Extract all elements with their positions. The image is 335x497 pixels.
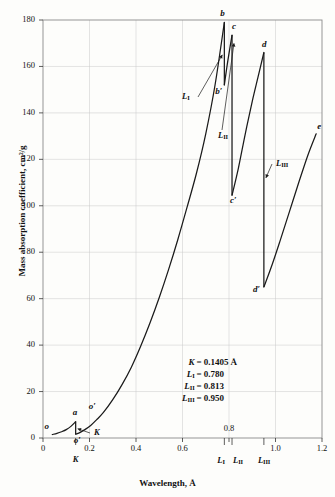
edge-axis-label-L-III: LIII (258, 456, 270, 466)
x-tick-label: 0.6 (168, 444, 198, 453)
x-tick-label: 0.8 (214, 424, 244, 433)
edge-callout-K: K (94, 428, 100, 437)
edge-value-equals: = (196, 381, 203, 393)
edge-value-symbol: LII (181, 381, 196, 393)
edge-value-number: 0.1405 (203, 357, 230, 369)
edge-value-symbol: LIII (181, 393, 196, 405)
edge-value-unit (229, 369, 238, 381)
y-tick-label: 160 (9, 61, 35, 70)
chart-canvas (0, 0, 335, 497)
curve-point-label-cp: c′ (230, 196, 237, 205)
edge-value-symbol: LI (181, 369, 196, 381)
edge-value-row: LII=0.813 (181, 381, 238, 393)
edge-value-unit: Å (229, 357, 238, 369)
curve-point-label-op: o′ (89, 402, 96, 411)
edge-callout-L-III: LIII (276, 159, 288, 169)
y-tick-label: 60 (9, 294, 35, 303)
edge-callout-L-II: LII (218, 131, 228, 141)
curve-point-label-c: c (232, 22, 236, 31)
curve-point-label-o: o (44, 422, 49, 431)
curve-point-label-d: d (262, 40, 267, 49)
edge-value-equals: = (196, 369, 203, 381)
curve-point-label-b: b (220, 9, 225, 18)
y-tick-label: 0 (9, 433, 35, 442)
y-axis-title: Mass absorption coefficient, cm²/g (17, 136, 27, 286)
figure-container: 020406080100120140160180 00.20.40.60.81.… (0, 0, 335, 497)
edge-value-number: 0.813 (203, 381, 230, 393)
edge-axis-label-L-II: LII (233, 456, 243, 466)
edge-value-equals: = (196, 357, 203, 369)
edge-callout-L-I: LI (182, 92, 190, 102)
curve-point-label-bp: b′ (215, 87, 222, 96)
x-tick-label: 1.0 (261, 444, 291, 453)
x-tick-label: 0.4 (121, 444, 151, 453)
y-tick-label: 40 (9, 340, 35, 349)
x-axis-title: Wavelength, Å (0, 479, 335, 488)
curve-point-label-dp: d′ (253, 285, 260, 294)
edge-value-number: 0.950 (203, 393, 230, 405)
curve-point-label-e: e (317, 122, 321, 131)
edge-value-unit (229, 393, 238, 405)
edge-axis-label-L-I: LI (217, 456, 225, 466)
curve-point-label-a: a (73, 408, 78, 417)
annotation-leader-lines (78, 43, 272, 433)
edge-value-row: K=0.1405Å (181, 357, 238, 369)
curve-point-label-ap: o′ (74, 436, 81, 445)
edge-values-annotation: K=0.1405ÅLI=0.780LII=0.813LIII=0.950 (181, 357, 238, 405)
x-tick-label: 1.2 (307, 444, 335, 453)
edge-value-row: LIII=0.950 (181, 393, 238, 405)
edge-value-symbol: K (181, 357, 196, 369)
edge-value-unit (229, 381, 238, 393)
y-tick-label: 20 (9, 387, 35, 396)
edge-value-equals: = (196, 393, 203, 405)
x-tick-label: 0 (28, 444, 58, 453)
edge-axis-label-K: K (73, 455, 79, 464)
y-tick-label: 180 (9, 15, 35, 24)
edge-value-row: LI=0.780 (181, 369, 238, 381)
edge-value-number: 0.780 (203, 369, 230, 381)
y-tick-label: 140 (9, 108, 35, 117)
